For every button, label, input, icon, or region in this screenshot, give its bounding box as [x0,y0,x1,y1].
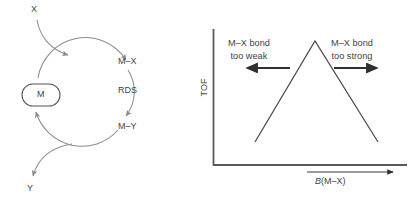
annotation-too-strong-line2: too strong [331,50,373,63]
cycle-arc-top [38,38,126,78]
catalytic-cycle-graphics [0,0,200,203]
substrate-in-arrow [37,20,68,55]
product-out-arrow [33,144,72,176]
product-label: Y [27,184,33,193]
annotation-too-strong-line1: M–X bond [331,37,373,50]
volcano-plot-graphics [200,0,413,203]
annotation-too-weak-line2: too weak [228,50,270,63]
substrate-label: X [31,5,37,14]
x-axis-label: B(M–X) [315,177,346,186]
figure-root: X Y M M–X RDS M–Y [0,0,413,203]
cycle-arc-bottom [36,112,118,146]
annotation-too-strong: M–X bond too strong [331,37,373,62]
intermediate-mx-label: M–X [118,57,137,66]
annotation-too-weak: M–X bond too weak [228,37,270,62]
rds-label: RDS [118,86,137,95]
volcano-plot-panel: TOF M–X bond too weak M–X bond too stron… [200,0,413,203]
intermediate-my-label: M–Y [118,122,137,131]
annotation-too-weak-line1: M–X bond [228,37,270,50]
catalyst-label: M [37,90,45,99]
y-axis-label: TOF [200,79,209,97]
x-axis-label-arg: (M–X) [321,176,346,186]
catalytic-cycle-panel: X Y M M–X RDS M–Y [0,0,200,203]
